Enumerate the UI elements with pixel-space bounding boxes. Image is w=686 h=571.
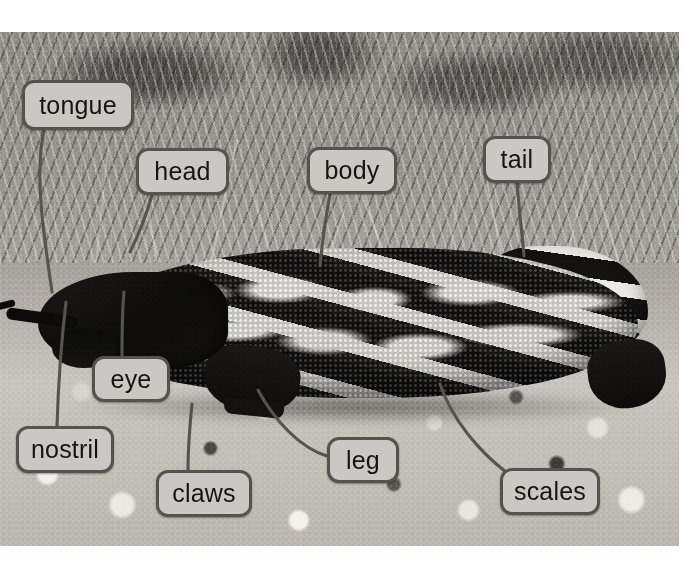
- label-leg[interactable]: leg: [327, 437, 399, 483]
- label-scales[interactable]: scales: [500, 468, 600, 515]
- label-claws[interactable]: claws: [156, 470, 252, 517]
- label-nostril[interactable]: nostril: [16, 426, 114, 473]
- label-tail[interactable]: tail: [483, 136, 551, 183]
- label-body[interactable]: body: [307, 147, 397, 194]
- label-tongue[interactable]: tongue: [22, 80, 134, 130]
- diagram-stage: tongueheadbodytaileyenostrilclawslegscal…: [0, 0, 686, 571]
- label-eye[interactable]: eye: [92, 356, 170, 402]
- label-head[interactable]: head: [136, 148, 229, 195]
